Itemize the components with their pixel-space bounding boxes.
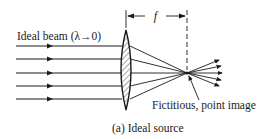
image-label: Fictitious, point image	[152, 99, 256, 112]
converging-rays	[130, 46, 187, 99]
image-pointer-line	[189, 76, 199, 100]
focal-point	[185, 71, 188, 74]
beam-label: Ideal beam (λ→0)	[17, 30, 101, 43]
focal-length-label: f	[154, 9, 159, 23]
caption: (a) Ideal source	[112, 122, 184, 135]
lens	[121, 30, 131, 110]
incoming-rays	[16, 46, 122, 99]
diverging-rays	[187, 60, 222, 86]
ideal-source-diagram: f Ideal beam (λ→0) Fictitious, point ima…	[0, 0, 268, 139]
